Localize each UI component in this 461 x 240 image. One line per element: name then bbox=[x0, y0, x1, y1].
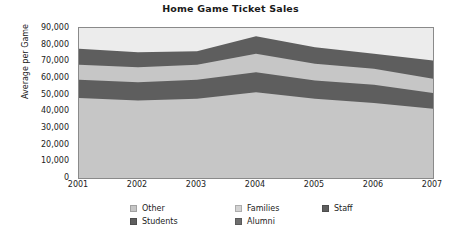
legend-label: Students bbox=[142, 217, 178, 226]
y-tick-label: 10,000 bbox=[41, 156, 69, 165]
y-tick-label: 50,000 bbox=[41, 89, 69, 98]
x-tick-label: 2003 bbox=[186, 180, 206, 189]
y-tick-label: 20,000 bbox=[41, 139, 69, 148]
chart-figure: Home Game Ticket Sales Average per Game … bbox=[0, 0, 461, 240]
x-tick-label: 2002 bbox=[127, 180, 147, 189]
legend-swatch-staff bbox=[322, 205, 329, 212]
legend-swatch-other bbox=[130, 205, 137, 212]
legend-label: Families bbox=[247, 204, 279, 213]
legend-row: OtherFamiliesStaff bbox=[130, 202, 400, 214]
x-tick-label: 2004 bbox=[245, 180, 265, 189]
legend-item-students[interactable]: Students bbox=[130, 217, 178, 226]
legend-item-staff[interactable]: Staff bbox=[322, 204, 353, 213]
stacked-area-series bbox=[79, 28, 433, 178]
y-tick-label: 40,000 bbox=[41, 106, 69, 115]
legend-label: Other bbox=[142, 204, 165, 213]
y-tick-label: 80,000 bbox=[41, 39, 69, 48]
x-tick-label: 2006 bbox=[363, 180, 383, 189]
y-tick-label: 30,000 bbox=[41, 123, 69, 132]
y-tick-label: 60,000 bbox=[41, 73, 69, 82]
legend-item-other[interactable]: Other bbox=[130, 204, 165, 213]
legend-row: StudentsAlumni bbox=[130, 215, 400, 227]
y-tick-label: 90,000 bbox=[41, 23, 69, 32]
legend-swatch-families bbox=[235, 205, 242, 212]
legend-label: Staff bbox=[334, 204, 353, 213]
legend-swatch-alumni bbox=[235, 218, 242, 225]
chart-title: Home Game Ticket Sales bbox=[0, 3, 461, 14]
plot-area bbox=[78, 27, 434, 179]
legend-label: Alumni bbox=[247, 217, 275, 226]
x-tick-label: 2005 bbox=[304, 180, 324, 189]
x-tick-label: 2001 bbox=[68, 180, 88, 189]
legend-swatch-students bbox=[130, 218, 137, 225]
chart-legend: OtherFamiliesStaffStudentsAlumni bbox=[130, 202, 400, 228]
x-tick-label: 2007 bbox=[422, 180, 442, 189]
legend-item-families[interactable]: Families bbox=[235, 204, 279, 213]
x-axis-ticks: 2001200220032004200520062007 bbox=[78, 180, 434, 194]
area-band-other bbox=[79, 92, 433, 178]
y-axis-ticks: 010,00020,00030,00040,00050,00060,00070,… bbox=[0, 27, 74, 177]
legend-item-alumni[interactable]: Alumni bbox=[235, 217, 275, 226]
y-tick-label: 70,000 bbox=[41, 56, 69, 65]
